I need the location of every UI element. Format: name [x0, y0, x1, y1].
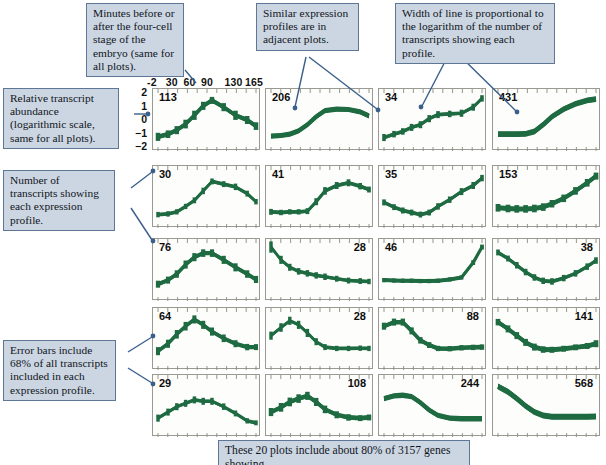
profile-band	[158, 98, 256, 139]
expression-profile-plot-r2c1[interactable]: 30	[152, 165, 260, 227]
transcript-count-label-r5c4: 568	[575, 377, 593, 389]
profile-band	[158, 317, 256, 353]
expression-profile-plot-r1c3[interactable]: 34	[378, 88, 486, 150]
transcript-count-label-r4c3: 88	[467, 310, 479, 322]
expression-profile-plot-r2c4[interactable]: 153	[492, 165, 600, 227]
expression-profile-plot-r4c2[interactable]: 28	[265, 307, 373, 369]
transcript-count-label-r4c4: 141	[575, 310, 593, 322]
profile-band	[158, 398, 256, 425]
profile-band	[384, 393, 482, 422]
profile-line	[158, 400, 256, 423]
x-tick-label-neg2: -2	[147, 76, 157, 88]
y-tick-label-1: 1	[141, 100, 147, 112]
profile-band	[271, 181, 369, 215]
profile-line	[498, 253, 596, 282]
expression-profile-plot-r5c2[interactable]: 108	[265, 374, 373, 436]
transcript-count-label-r5c1: 29	[159, 377, 171, 389]
x-tick-label-130: 130	[224, 76, 242, 88]
callout-adjacency-note: Similar expression profiles are in adjac…	[256, 3, 359, 51]
error-bars	[158, 315, 256, 355]
error-bars	[384, 245, 482, 284]
callout-error-bar-note: Error bars include 68% of all transcript…	[3, 340, 116, 401]
profile-line	[384, 395, 482, 419]
transcript-count-label-r1c2: 206	[272, 91, 290, 103]
expression-profile-plot-r3c3[interactable]: 46	[378, 238, 486, 300]
expression-profile-plot-r4c1[interactable]: 64	[152, 307, 260, 369]
transcript-count-label-r2c1: 30	[159, 168, 171, 180]
y-tick-label-neg2: −2	[135, 140, 147, 152]
profile-band	[384, 176, 482, 216]
transcript-count-label-r3c4: 38	[581, 241, 593, 253]
y-tick-label-neg1: −1	[135, 127, 147, 139]
expression-profile-plot-r1c2[interactable]: 206	[265, 88, 373, 150]
figure-root: Minutes before or after the four-cell st…	[0, 0, 606, 465]
expression-profile-plot-r5c3[interactable]: 244	[378, 374, 486, 436]
profile-band	[158, 180, 256, 217]
expression-profile-plot-r1c1[interactable]: 113	[152, 88, 260, 150]
y-tick-label-0: 0	[141, 113, 147, 125]
expression-profile-plot-r1c4[interactable]: 431	[492, 88, 600, 150]
expression-profile-plot-r2c3[interactable]: 35	[378, 165, 486, 227]
profile-band	[271, 107, 369, 139]
transcript-count-label-r2c3: 35	[385, 168, 397, 180]
figure-caption: These 20 plots include about 80% of 3157…	[218, 440, 470, 465]
transcript-count-label-r3c2: 28	[354, 241, 366, 253]
expression-profile-plot-r2c2[interactable]: 41	[265, 165, 373, 227]
x-tick-label-60: 60	[183, 76, 195, 88]
transcript-count-label-r2c2: 41	[272, 168, 284, 180]
y-axis-tick-labels: 210−1−2	[128, 88, 147, 152]
transcript-count-label-r4c1: 64	[159, 310, 171, 322]
transcript-count-label-r2c4: 153	[499, 168, 517, 180]
callout-count-note: Number of transcripts showing each expre…	[3, 170, 115, 231]
transcript-count-label-r4c2: 28	[354, 310, 366, 322]
expression-profile-plot-r4c4[interactable]: 141	[492, 307, 600, 369]
expression-profile-plot-r5c4[interactable]: 568	[492, 374, 600, 436]
x-tick-label-90: 90	[201, 76, 213, 88]
callout-line-width-note: Width of line is proportional to the log…	[395, 3, 555, 64]
profile-band	[271, 319, 369, 350]
profile-band	[271, 394, 369, 421]
profile-band	[384, 97, 482, 140]
expression-profile-plot-r3c4[interactable]: 38	[492, 238, 600, 300]
x-tick-label-165: 165	[245, 76, 263, 88]
callout-y-axis-note: Relative transcript abundance (logarithm…	[3, 88, 119, 149]
x-tick-label-30: 30	[166, 76, 178, 88]
profile-band	[384, 320, 482, 351]
expression-profile-plot-r3c2[interactable]: 28	[265, 238, 373, 300]
transcript-count-label-r1c4: 431	[499, 91, 517, 103]
transcript-count-label-r5c3: 244	[461, 377, 479, 389]
transcript-count-label-r5c2: 108	[348, 377, 366, 389]
expression-profile-plot-r5c1[interactable]: 29	[152, 374, 260, 436]
transcript-count-label-r3c1: 76	[159, 241, 171, 253]
transcript-count-label-r1c1: 113	[159, 91, 177, 103]
profile-band	[498, 320, 596, 353]
transcript-count-label-r1c3: 34	[385, 91, 397, 103]
profile-band	[384, 245, 482, 283]
profile-band	[498, 251, 596, 284]
expression-profile-plot-r3c1[interactable]: 76	[152, 238, 260, 300]
expression-profile-plot-r4c3[interactable]: 88	[378, 307, 486, 369]
profile-line	[384, 247, 482, 281]
profile-band	[158, 251, 256, 287]
transcript-count-label-r3c3: 46	[385, 241, 397, 253]
caption-line-1: These 20 plots include about 80% of 3157…	[225, 444, 463, 465]
y-tick-label-2: 2	[141, 86, 147, 98]
profile-line	[498, 386, 596, 416]
callout-x-axis-note: Minutes before or after the four-cell st…	[86, 3, 184, 77]
